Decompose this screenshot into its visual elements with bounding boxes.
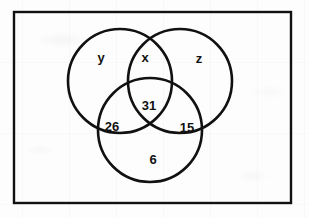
venn-diagram-figure: y x z 31 26 15 6 xyxy=(0,0,309,218)
region-label-x: x xyxy=(141,50,149,65)
region-count-center: 31 xyxy=(142,98,156,113)
region-count-left: 26 xyxy=(105,119,119,134)
region-count-right: 15 xyxy=(180,120,194,135)
upper-left-circle xyxy=(68,29,172,133)
region-label-z: z xyxy=(196,51,203,66)
upper-right-circle xyxy=(128,29,232,133)
region-label-y: y xyxy=(97,50,105,65)
venn-diagram-canvas: y x z 31 26 15 6 xyxy=(0,0,309,218)
region-count-bottom: 6 xyxy=(149,152,156,167)
